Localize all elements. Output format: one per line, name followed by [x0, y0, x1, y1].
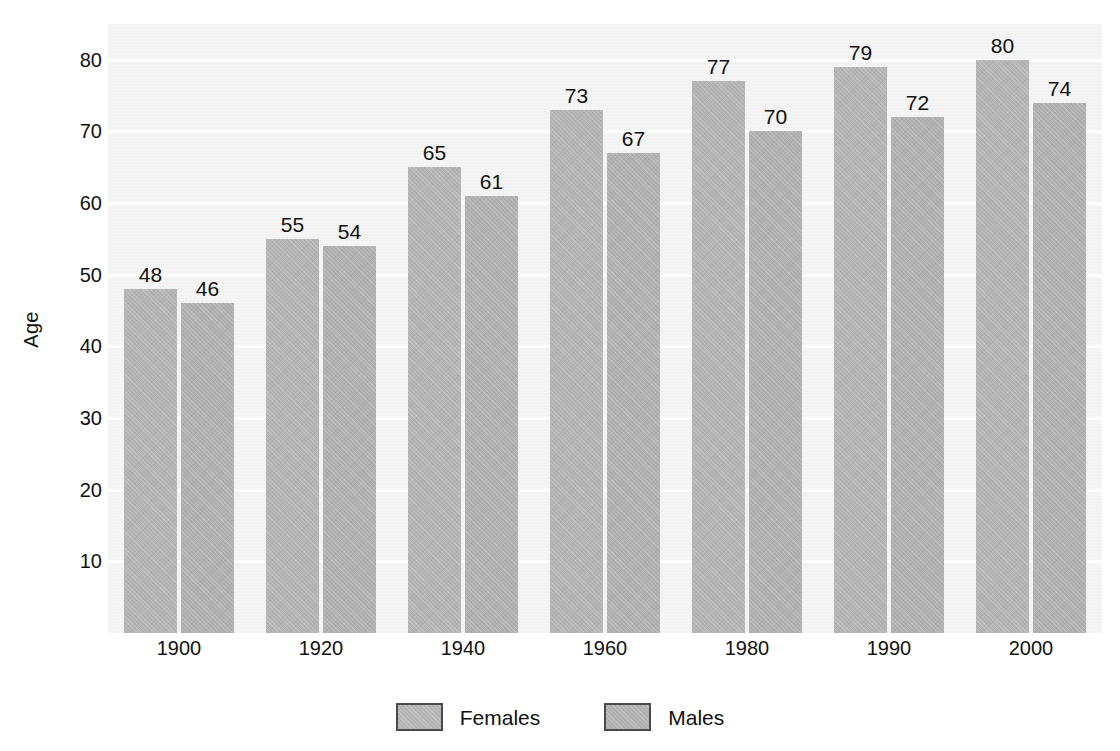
- bars-layer: 4846555465617367777079728074: [108, 24, 1102, 633]
- bar-value-label: 65: [423, 142, 446, 163]
- x-axis-tick-1990: 1990: [867, 638, 912, 658]
- bar-value-label: 46: [196, 278, 219, 299]
- bar-females-1920[interactable]: 55: [266, 239, 319, 633]
- y-axis-tick: 30: [50, 408, 102, 428]
- y-axis-tick: 40: [50, 336, 102, 356]
- bar-males-1960[interactable]: 67: [607, 153, 660, 633]
- y-axis-tick: 10: [50, 551, 102, 571]
- bar-value-label: 54: [338, 221, 361, 242]
- bar-males-2000[interactable]: 74: [1033, 103, 1086, 633]
- bar-value-label: 79: [849, 42, 872, 63]
- bar-value-label: 67: [622, 128, 645, 149]
- y-axis-tick: 60: [50, 193, 102, 213]
- x-axis-tick-1980: 1980: [725, 638, 770, 658]
- bar-males-1990[interactable]: 72: [891, 117, 944, 633]
- bar-value-label: 74: [1048, 78, 1071, 99]
- legend-swatch-males: [604, 703, 651, 731]
- bar-females-1980[interactable]: 77: [692, 81, 745, 633]
- plot-area: 4846555465617367777079728074: [108, 24, 1102, 633]
- x-axis-tick-1940: 1940: [441, 638, 486, 658]
- bar-females-2000[interactable]: 80: [976, 60, 1029, 633]
- y-axis-tick-labels: 1020304050607080: [50, 0, 102, 751]
- bar-females-1990[interactable]: 79: [834, 67, 887, 633]
- bar-chart: Age 1020304050607080 4846555465617367777…: [0, 0, 1120, 751]
- x-axis-tick-1900: 1900: [157, 638, 202, 658]
- bar-females-1900[interactable]: 48: [124, 289, 177, 633]
- bar-males-1980[interactable]: 70: [749, 131, 802, 633]
- legend-label: Males: [668, 707, 724, 728]
- bar-value-label: 72: [906, 92, 929, 113]
- y-axis-tick: 80: [50, 50, 102, 70]
- x-axis-tick-2000: 2000: [1009, 638, 1054, 658]
- bar-value-label: 80: [991, 35, 1014, 56]
- bar-males-1900[interactable]: 46: [181, 303, 234, 633]
- legend-item-females[interactable]: Females: [396, 703, 541, 731]
- legend-label: Females: [460, 707, 541, 728]
- y-axis-tick: 20: [50, 480, 102, 500]
- y-axis-tick: 50: [50, 265, 102, 285]
- bar-value-label: 77: [707, 56, 730, 77]
- bar-value-label: 70: [764, 106, 787, 127]
- bar-value-label: 48: [139, 264, 162, 285]
- bar-males-1920[interactable]: 54: [323, 246, 376, 633]
- x-axis-tick-1920: 1920: [299, 638, 344, 658]
- bar-value-label: 55: [281, 214, 304, 235]
- y-axis-tick: 70: [50, 121, 102, 141]
- legend-item-males[interactable]: Males: [604, 703, 724, 731]
- bar-females-1960[interactable]: 73: [550, 110, 603, 633]
- y-axis-title: Age: [20, 290, 43, 370]
- bar-females-1940[interactable]: 65: [408, 167, 461, 633]
- x-axis-tick-labels: 1900192019401960198019902000: [108, 638, 1102, 672]
- bar-males-1940[interactable]: 61: [465, 196, 518, 633]
- bar-value-label: 61: [480, 171, 503, 192]
- legend-swatch-females: [396, 703, 443, 731]
- x-axis-tick-1960: 1960: [583, 638, 628, 658]
- bar-value-label: 73: [565, 85, 588, 106]
- chart-legend: FemalesMales: [0, 697, 1120, 737]
